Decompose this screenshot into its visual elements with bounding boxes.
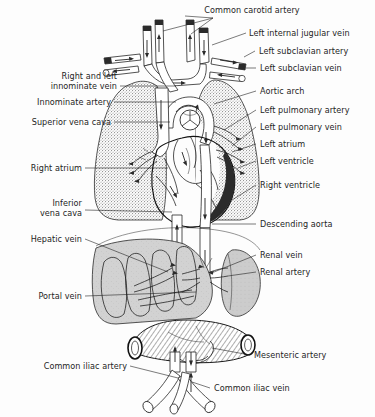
label-left-subclavian-vein: Left subclavian vein [260,63,342,73]
label-left-atrium: Left atrium [260,139,305,149]
label-superior-vena-cava: Superior vena cava [32,117,111,127]
label-left-subclavian-artery: Left subclavian artery [259,46,348,56]
pulmonary-vessels [180,110,200,130]
label-left-pulmonary-artery: Left pulmonary artery [260,105,350,115]
liver [92,239,212,324]
label-inferior-vena-cava-line2: vena cava [40,208,82,218]
label-mesenteric-artery: Mesenteric artery [254,350,327,360]
label-inferior-vena-cava-line1: Inferior [52,198,82,208]
label-portal-vein: Portal vein [38,291,82,301]
label-common-iliac-vein: Common iliac vein [214,383,290,393]
label-renal-vein: Renal vein [260,250,303,260]
label-left-ventricle: Left ventricle [260,156,314,166]
label-innominate-vein-line1: Right and left [62,71,118,81]
label-descending-aorta: Descending aorta [260,219,332,229]
label-common-carotid-artery: Common carotid artery [204,5,299,15]
label-hepatic-vein: Hepatic vein [31,234,82,244]
label-left-internal-jugular-vein: Left internal jugular vein [249,28,350,38]
label-aortic-arch: Aortic arch [260,86,304,96]
label-right-atrium: Right atrium [31,163,82,173]
label-innominate-artery: Innominate artery [37,97,111,107]
label-right-ventricle: Right ventricle [260,180,320,190]
anatomical-diagram: Common carotid artery Left internal jugu… [0,0,375,417]
label-common-iliac-artery: Common iliac artery [44,361,127,371]
label-renal-artery: Renal artery [260,267,310,277]
label-left-pulmonary-vein: Left pulmonary vein [260,122,342,132]
label-innominate-vein-line2: innominate vein [51,81,117,91]
